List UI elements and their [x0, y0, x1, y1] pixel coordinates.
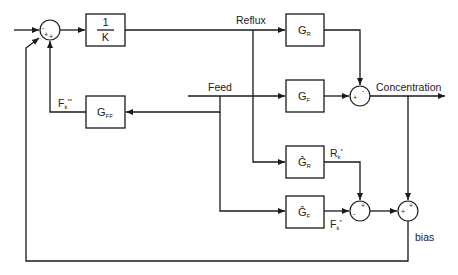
denominator: K: [102, 31, 110, 43]
concentration-label: Concentration: [376, 81, 442, 93]
control-block-diagram: - + + 1 K Reflux GR Feed GF - + Concentr…: [0, 0, 458, 275]
setpoint-summing-junction: - + +: [40, 20, 60, 40]
sign-plus: +: [409, 202, 413, 209]
g-r-hat-block: ĜR: [286, 146, 324, 178]
sign-plus: +: [44, 31, 48, 38]
g-f-block: GF: [286, 80, 324, 112]
g-f-hat-block: ĜF: [286, 196, 324, 228]
fk-double-star-label: Fk**: [58, 97, 73, 110]
sign-plus: +: [361, 202, 365, 209]
sign-plus: +: [353, 94, 357, 101]
g-ff-block: GFF: [86, 96, 125, 128]
g-r-block: GR: [286, 14, 324, 46]
bias-label: bias: [415, 231, 434, 243]
model-summing-junction: + -: [350, 201, 370, 221]
fk-star-label: Fk*: [330, 218, 342, 231]
bias-feedback-line: [26, 38, 408, 261]
inverse-k-block: 1 K: [86, 14, 125, 46]
rk-star-line: [324, 162, 360, 200]
g-r-output-line: [324, 30, 360, 85]
process-summing-junction: - +: [350, 86, 370, 106]
bias-summing-junction: + +: [398, 201, 418, 221]
reflux-label: Reflux: [236, 14, 267, 26]
feed-label: Feed: [208, 81, 232, 93]
sign-plus: +: [49, 33, 53, 40]
feed-to-gff-line: [126, 96, 220, 112]
rk-star-label: Rk*: [330, 147, 344, 160]
numerator: 1: [102, 16, 108, 28]
sign-plus: +: [401, 208, 405, 215]
